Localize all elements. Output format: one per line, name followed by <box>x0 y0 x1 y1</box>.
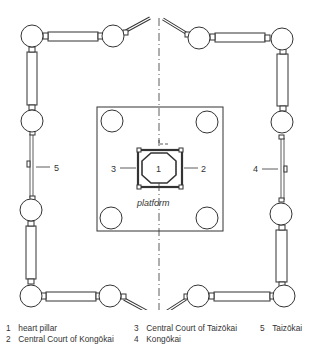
legend-item: 3 Central Court of Taizōkai <box>134 323 237 334</box>
taizokai-marker <box>27 161 30 167</box>
platform-pillar <box>101 110 123 132</box>
beam <box>215 33 265 42</box>
pillar <box>271 28 293 50</box>
label-kongokai-court: 2 <box>201 164 206 174</box>
pillar <box>188 27 210 49</box>
pillar <box>20 285 42 307</box>
label-taizokai: 5 <box>54 163 59 173</box>
legend-item: 4 Kongōkai <box>134 334 181 345</box>
pillar <box>21 110 43 132</box>
legend-item: 1 heart pillar <box>6 323 57 334</box>
label-taizokai-court: 3 <box>111 164 116 174</box>
beam <box>48 32 98 41</box>
pillar <box>270 203 292 225</box>
pillar <box>102 25 124 47</box>
beam <box>26 226 36 279</box>
platform-pillar <box>196 207 218 229</box>
legend-item: 2 Central Court of Kongōkai <box>6 334 114 345</box>
kongokai-marker <box>284 166 287 172</box>
pillar <box>187 285 209 307</box>
beam <box>27 52 37 105</box>
platform-pillar <box>100 207 122 229</box>
pillar <box>20 199 42 221</box>
beam <box>46 292 96 301</box>
beam <box>276 230 287 282</box>
pillar <box>99 285 121 307</box>
label-heart-pillar: 1 <box>156 164 161 174</box>
pillar <box>21 25 43 47</box>
pillar <box>273 285 295 307</box>
beam <box>277 54 288 106</box>
mandala-plan-diagram: 1 2 3 4 5 platform <box>0 0 319 310</box>
legend-item: 5 Taizōkai <box>260 323 302 334</box>
label-kongokai: 4 <box>253 164 258 174</box>
pillar <box>271 111 293 133</box>
platform-pillar <box>196 111 218 133</box>
label-platform: platform <box>136 198 170 208</box>
beam <box>214 292 270 301</box>
